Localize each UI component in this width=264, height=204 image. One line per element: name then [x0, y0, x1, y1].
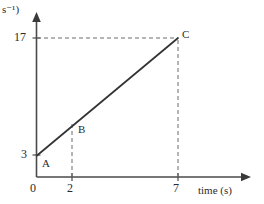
x-tick-label-0: 0: [30, 182, 36, 194]
x-axis-arrow-icon: [241, 173, 251, 182]
y-tick-label-17: 17: [14, 31, 26, 43]
y-tick-label-3: 3: [21, 148, 27, 160]
x-tick-label-2: 2: [67, 182, 73, 194]
y-axis-arrow-icon: [32, 12, 41, 22]
point-label-b: B: [78, 124, 85, 135]
point-label-a: A: [42, 158, 50, 169]
y-axis-label-text: s⁻¹): [2, 3, 19, 15]
data-series-line: [37, 38, 178, 156]
graph-figure: s⁻¹) time (s) 17 3 0 2 7 A B C: [0, 0, 264, 204]
plot-canvas: [0, 0, 264, 204]
y-axis-label: s⁻¹): [2, 4, 19, 15]
point-label-c: C: [182, 29, 189, 40]
x-tick-label-7: 7: [173, 182, 179, 194]
x-axis-label: time (s): [198, 185, 232, 196]
